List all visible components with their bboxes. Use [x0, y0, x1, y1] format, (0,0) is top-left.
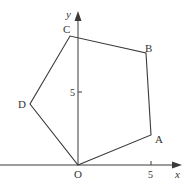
vertex-label-a: A: [155, 133, 163, 145]
y-tick-label-5: 5: [70, 87, 75, 98]
vertex-label-c: C: [63, 23, 70, 35]
y-axis-label: y: [65, 8, 71, 20]
diagram-canvas: y x 5 5 O A B C D: [0, 0, 187, 186]
y-axis-arrow-icon: [75, 11, 82, 21]
coordinate-plot: y x 5 5 O A B C D: [0, 0, 187, 186]
vertex-label-b: B: [145, 42, 152, 54]
pentagon-oabcd: [30, 36, 151, 165]
vertex-label-o: O: [74, 168, 82, 180]
x-axis-label: x: [174, 168, 180, 180]
x-tick-label-5: 5: [148, 169, 153, 180]
vertex-label-d: D: [18, 98, 26, 110]
